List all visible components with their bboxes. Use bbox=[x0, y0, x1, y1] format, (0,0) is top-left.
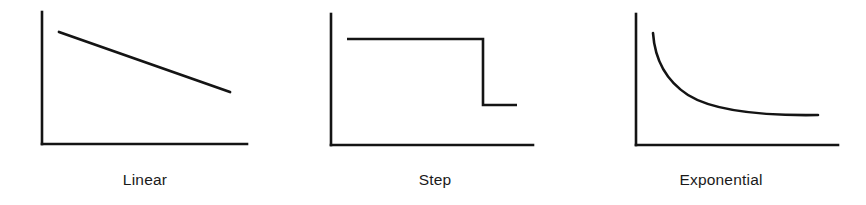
panel-caption-linear: Linear bbox=[0, 170, 290, 190]
exponential-data-curve bbox=[653, 33, 818, 115]
linear-data-curve bbox=[59, 32, 230, 92]
figure-three-decay-curves: Linear Step Exponential bbox=[0, 0, 866, 205]
panel-linear: Linear bbox=[0, 0, 290, 205]
panel-caption-step: Step bbox=[290, 170, 580, 190]
panel-step: Step bbox=[290, 0, 580, 205]
panel-exponential: Exponential bbox=[576, 0, 866, 205]
panel-caption-exponential: Exponential bbox=[576, 170, 866, 190]
step-data-curve bbox=[347, 39, 517, 105]
